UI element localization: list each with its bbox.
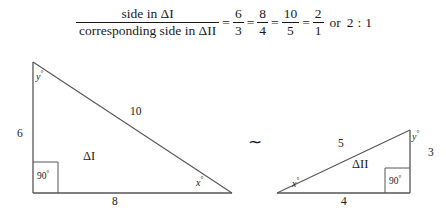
similar-triangles-figure: side in ΔI corresponding side in ΔII = 6… (0, 0, 446, 217)
triangle-1-vertical-leg-label: 6 (17, 128, 23, 140)
triangle-1-angle-x-label: x° (196, 178, 203, 188)
triangle-1-shape (33, 62, 232, 193)
triangle-1-angle-y-label: y° (36, 72, 43, 82)
triangle-1-right-angle-label: 90° (37, 172, 49, 182)
triangle-2-horizontal-leg-label: 4 (341, 196, 347, 208)
triangle-2-right-angle-label: 90° (389, 177, 401, 187)
triangles-drawing (0, 0, 446, 217)
triangle-1-name-label: ΔI (83, 150, 95, 163)
triangle-1-hypotenuse (33, 62, 232, 193)
similarity-symbol: ~ (248, 134, 262, 151)
triangle-2-name-label: ΔII (352, 158, 368, 171)
triangle-2-angle-y-label: y° (412, 132, 419, 142)
triangle-1-horizontal-leg-label: 8 (112, 196, 118, 208)
triangle-2-hypotenuse-label: 5 (338, 138, 344, 150)
triangle-2-angle-x-label: x° (292, 179, 299, 189)
triangle-2-vertical-leg-label: 3 (428, 147, 434, 159)
triangle-1-hypotenuse-label: 10 (130, 106, 142, 118)
